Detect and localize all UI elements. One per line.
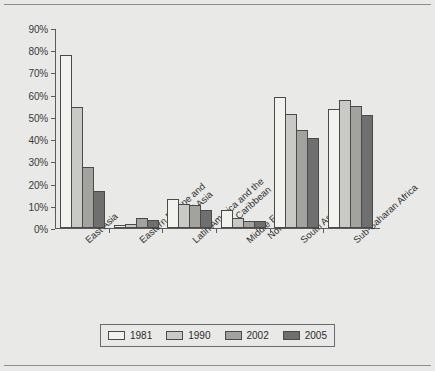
- y-tick-label: 10%: [29, 201, 48, 212]
- bar-2002: [350, 106, 362, 228]
- y-tick-label: 60%: [29, 90, 48, 101]
- bar-group: [56, 29, 110, 228]
- top-divider-rule: [4, 4, 431, 5]
- y-tick-label: 70%: [29, 68, 48, 79]
- bar-2002: [189, 205, 201, 228]
- bar-2002: [243, 221, 255, 228]
- bar-2002: [136, 218, 148, 228]
- legend-swatch-icon: [225, 331, 242, 340]
- bar-group: [110, 29, 164, 228]
- legend-swatch-icon: [283, 331, 300, 340]
- bar-2005: [361, 115, 373, 228]
- y-tick: [51, 229, 55, 230]
- bar-2005: [307, 138, 319, 228]
- bar-2002: [296, 130, 308, 228]
- y-tick: [51, 118, 55, 119]
- y-tick-label: 80%: [29, 46, 48, 57]
- bar-group: [324, 29, 378, 228]
- bar-2002: [82, 167, 94, 228]
- bar-1981: [274, 97, 286, 228]
- y-tick-label: 90%: [29, 24, 48, 35]
- bar-2005: [254, 221, 266, 228]
- y-tick: [51, 162, 55, 163]
- bar-groups: [56, 29, 377, 228]
- legend-item-1990[interactable]: 1990: [166, 330, 210, 341]
- y-tick-label: 50%: [29, 112, 48, 123]
- y-tick: [51, 51, 55, 52]
- y-tick-label: 20%: [29, 179, 48, 190]
- y-tick: [51, 96, 55, 97]
- bar-1981: [328, 109, 340, 228]
- bar-1981: [60, 55, 72, 228]
- bar-1990: [125, 224, 137, 228]
- legend-item-2005[interactable]: 2005: [283, 330, 327, 341]
- legend-label: 1990: [188, 330, 210, 341]
- y-tick-label: 40%: [29, 135, 48, 146]
- bar-2005: [200, 210, 212, 228]
- y-tick-label: 0%: [34, 224, 48, 235]
- bar-1981: [114, 225, 126, 228]
- y-tick-label: 30%: [29, 157, 48, 168]
- bar-1990: [71, 107, 83, 228]
- legend-label: 1981: [130, 330, 152, 341]
- bar-1981: [167, 199, 179, 228]
- chart-legend: 1981199020022005: [100, 324, 335, 347]
- legend-swatch-icon: [166, 331, 183, 340]
- bar-1990: [285, 114, 297, 228]
- y-tick: [51, 140, 55, 141]
- y-tick: [51, 207, 55, 208]
- legend-swatch-icon: [108, 331, 125, 340]
- bar-1990: [178, 204, 190, 228]
- y-tick: [51, 185, 55, 186]
- legend-item-1981[interactable]: 1981: [108, 330, 152, 341]
- legend-label: 2005: [305, 330, 327, 341]
- y-tick: [51, 73, 55, 74]
- bar-group: [270, 29, 324, 228]
- bar-1990: [232, 218, 244, 228]
- y-tick: [51, 29, 55, 30]
- bar-2005: [93, 191, 105, 228]
- chart-page: 90%80%70%60%50%40%30%20%10%0% East AsiaE…: [0, 0, 435, 371]
- x-axis-category-labels: East AsiaEastern Europe andCentral AsiaL…: [55, 233, 377, 313]
- bar-1990: [339, 100, 351, 228]
- legend-label: 2002: [247, 330, 269, 341]
- bar-2005: [147, 220, 159, 228]
- bottom-divider-rule: [4, 365, 431, 366]
- legend-item-2002[interactable]: 2002: [225, 330, 269, 341]
- plot-area: 90%80%70%60%50%40%30%20%10%0%: [55, 29, 377, 229]
- bar-1981: [221, 210, 233, 228]
